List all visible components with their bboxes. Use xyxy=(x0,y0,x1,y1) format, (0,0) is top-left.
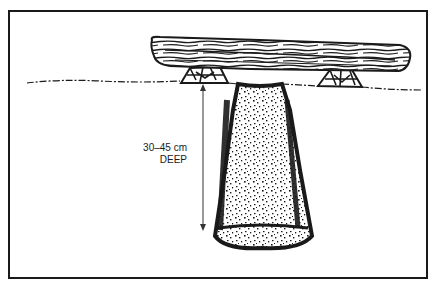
diagram-illustration xyxy=(0,0,433,285)
diagram-canvas: 30–45 cm DEEP xyxy=(0,0,433,285)
stone-support-right xyxy=(318,70,362,87)
depth-label-measure: 30–45 cm xyxy=(143,142,187,154)
log-seat xyxy=(151,37,410,71)
stone-support-left xyxy=(181,67,228,83)
latrine-pit xyxy=(215,84,312,248)
depth-arrow xyxy=(200,84,206,231)
depth-label: 30–45 cm DEEP xyxy=(143,142,187,166)
depth-label-word: DEEP xyxy=(143,154,187,166)
